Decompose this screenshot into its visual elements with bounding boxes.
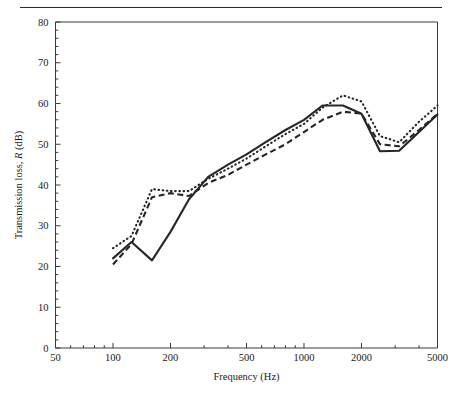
y-tick-label: 80 <box>38 17 49 28</box>
tick-marks <box>56 22 438 348</box>
y-tick-label: 30 <box>38 220 49 231</box>
x-tick-label: 100 <box>105 352 121 363</box>
x-tick-label: 5000 <box>427 352 448 363</box>
y-tick-label: 70 <box>38 57 49 68</box>
x-axis-title: Frequency (Hz) <box>213 371 280 383</box>
y-tick-label: 40 <box>38 180 49 191</box>
y-axis-title: Transmission loss, R (dB) <box>13 130 25 239</box>
chart-canvas: 50100200500100020005000 0102030405060708… <box>0 0 462 400</box>
y-axis-title-prefix: Transmission loss, <box>13 159 24 239</box>
figure-container: 50100200500100020005000 0102030405060708… <box>0 0 462 400</box>
series-line-solid <box>113 106 438 261</box>
axes <box>56 22 438 348</box>
series-line-dotted <box>113 95 438 248</box>
y-tick-labels: 01020304050607080 <box>38 17 49 354</box>
x-tick-label: 200 <box>163 352 179 363</box>
y-axis-title-suffix: (dB) <box>13 130 25 152</box>
y-tick-label: 0 <box>43 343 48 354</box>
x-tick-label: 2000 <box>351 352 372 363</box>
x-tick-label: 500 <box>239 352 255 363</box>
y-tick-label: 10 <box>38 302 49 313</box>
x-tick-label: 50 <box>50 352 61 363</box>
x-tick-label: 1000 <box>293 352 314 363</box>
y-tick-label: 50 <box>38 139 49 150</box>
y-tick-label: 60 <box>38 98 49 109</box>
data-series <box>113 95 438 264</box>
y-tick-label: 20 <box>38 261 49 272</box>
series-line-dashed <box>113 112 438 265</box>
x-tick-labels: 50100200500100020005000 <box>50 352 448 363</box>
